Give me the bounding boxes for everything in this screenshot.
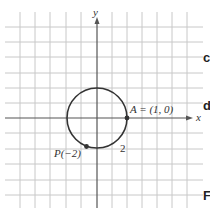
x-axis-label: x [195,111,201,123]
arc-length-label: 2 [120,142,126,154]
unit-circle-diagram: x y A = (1, 0) P(−2) 2 c d F [0,0,210,211]
point-p [84,144,89,149]
point-a-label: A = (1, 0) [129,103,174,116]
edge-letter-c: c [203,50,210,65]
x-axis-arrow-icon [186,116,193,121]
point-a [125,116,130,121]
grid [5,12,203,208]
y-axis-label: y [92,6,98,18]
y-axis-arrow-icon [95,17,100,24]
point-p-label: P(−2) [53,147,81,160]
edge-letter-d: d [203,98,210,113]
edge-letter-f: F [203,188,210,203]
